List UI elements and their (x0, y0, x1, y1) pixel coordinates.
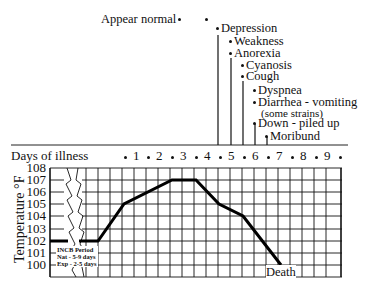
symptom-cough: Cough (241, 70, 279, 82)
day-4: 4 (204, 148, 211, 164)
bullet-icon (253, 101, 256, 104)
day-6: 6 (252, 148, 259, 164)
death-label: Death (266, 265, 296, 280)
day-separator-icon (243, 156, 246, 159)
day-5: 5 (228, 148, 235, 164)
day-1: 1 (133, 148, 140, 164)
day-separator-icon (267, 156, 270, 159)
bullet-icon (216, 27, 219, 30)
day-7: 7 (276, 148, 283, 164)
bullet-icon (241, 75, 244, 78)
bullet-icon (241, 64, 244, 67)
bullet-icon (229, 52, 232, 55)
bullet-icon (205, 18, 208, 21)
day-separator-icon (315, 156, 318, 159)
day-3: 3 (180, 148, 187, 164)
bullet-icon (229, 40, 232, 43)
day-separator-icon (147, 156, 150, 159)
y-axis-label: Temperature °F (12, 176, 28, 263)
day-separator-icon (171, 156, 174, 159)
bullet-icon (253, 89, 256, 92)
day-2: 2 (156, 148, 163, 164)
day-separator-icon (195, 156, 198, 159)
bullet-icon (265, 135, 268, 138)
day-separator-icon (291, 156, 294, 159)
symptom-appear-normal: Appear normal (101, 13, 183, 25)
bullet-icon (253, 122, 256, 125)
symptom-down-piled-up: Down - piled up (253, 117, 340, 129)
day-8: 8 (300, 148, 307, 164)
bullet-icon (178, 18, 181, 21)
symptom-moribund: Moribund (265, 130, 320, 142)
day-separator-icon (124, 156, 127, 159)
day-separator-icon (219, 156, 222, 159)
day-9: 9 (324, 148, 331, 164)
incubation-note: INCB Period Nat - 5-9 days Exp - 2-5 day… (56, 246, 98, 267)
day-separator-icon (339, 156, 342, 159)
symptom-depression: Depression (216, 22, 277, 34)
